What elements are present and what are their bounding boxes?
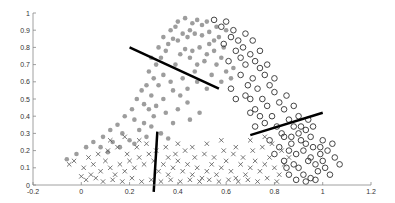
data-point (132, 166, 136, 170)
data-point (183, 47, 188, 52)
data-point (178, 52, 183, 57)
data-point (255, 86, 261, 92)
data-point (130, 107, 135, 112)
data-point (303, 179, 309, 185)
data-point (188, 55, 193, 60)
data-point (91, 162, 95, 166)
data-point (224, 69, 229, 74)
data-point (79, 174, 83, 178)
data-point (308, 134, 314, 140)
data-point (224, 159, 228, 163)
data-point (180, 76, 185, 81)
x-tick-label: 1.2 (366, 188, 376, 195)
data-point (223, 19, 229, 25)
data-point (65, 157, 70, 162)
data-point (224, 28, 229, 33)
data-point (171, 88, 176, 93)
data-point (272, 76, 278, 82)
data-point (212, 49, 217, 54)
data-point (265, 176, 269, 180)
data-point (197, 110, 202, 115)
data-point (120, 179, 124, 183)
data-point (142, 121, 147, 126)
data-point (264, 62, 270, 68)
data-point (108, 128, 113, 133)
data-point (284, 165, 290, 171)
data-point (214, 62, 219, 67)
data-point (267, 155, 271, 159)
data-point (313, 162, 319, 168)
data-point (252, 58, 258, 64)
data-point (243, 62, 249, 68)
data-point (135, 97, 140, 102)
data-point (103, 159, 107, 163)
data-point (272, 151, 278, 157)
data-point (156, 45, 161, 50)
data-point (310, 144, 316, 150)
data-point (135, 145, 139, 149)
data-point (263, 135, 267, 139)
data-point (252, 124, 258, 130)
data-point (263, 162, 267, 166)
data-point (287, 155, 291, 159)
data-point (293, 151, 299, 157)
data-point (118, 145, 123, 150)
data-point (217, 35, 222, 40)
data-point (108, 166, 112, 170)
data-point (246, 178, 250, 182)
data-point (222, 148, 226, 152)
data-point (219, 80, 224, 85)
data-point (257, 113, 263, 119)
data-point (144, 142, 148, 146)
data-point (238, 162, 242, 166)
data-point (301, 172, 307, 178)
data-point (171, 166, 175, 170)
data-point (147, 69, 152, 74)
data-point (209, 73, 214, 78)
data-point (161, 73, 166, 78)
data-point (219, 166, 223, 170)
data-point (188, 117, 193, 122)
data-point (197, 45, 202, 50)
data-point (200, 23, 205, 28)
data-point (84, 178, 88, 182)
data-point (190, 172, 194, 176)
y-tick-label: 0.1 (20, 164, 30, 171)
data-point (173, 62, 178, 67)
data-point (276, 144, 282, 150)
data-point (301, 148, 307, 154)
data-point (137, 128, 142, 133)
data-point (233, 96, 239, 102)
x-tick-label: 0.6 (221, 188, 231, 195)
data-point (183, 16, 188, 21)
data-point (205, 86, 210, 91)
y-tick-label: 0.8 (20, 44, 30, 51)
data-point (168, 80, 173, 85)
data-point (163, 110, 168, 115)
data-point (281, 107, 287, 113)
data-point (226, 58, 232, 64)
data-point (240, 45, 246, 51)
data-point (178, 179, 182, 183)
x-tick-labels: -0.200.20.40.60.811.2 (27, 188, 376, 195)
data-point (267, 137, 273, 143)
data-point (257, 65, 263, 71)
data-point (291, 162, 297, 168)
data-point (166, 172, 170, 176)
data-point (247, 51, 253, 57)
x-tick-label: -0.2 (27, 188, 39, 195)
data-point (101, 135, 106, 140)
data-point (318, 151, 324, 157)
data-point (120, 131, 125, 136)
data-point (250, 76, 256, 82)
data-point (320, 158, 326, 164)
data-point (142, 162, 146, 166)
y-tick-label: 0.9 (20, 27, 30, 34)
data-point (149, 178, 153, 182)
data-point (284, 93, 290, 99)
x-tick-label: 0 (79, 188, 83, 195)
data-point (185, 162, 189, 166)
data-point (219, 24, 225, 30)
data-point (235, 38, 241, 44)
data-point (195, 18, 200, 23)
